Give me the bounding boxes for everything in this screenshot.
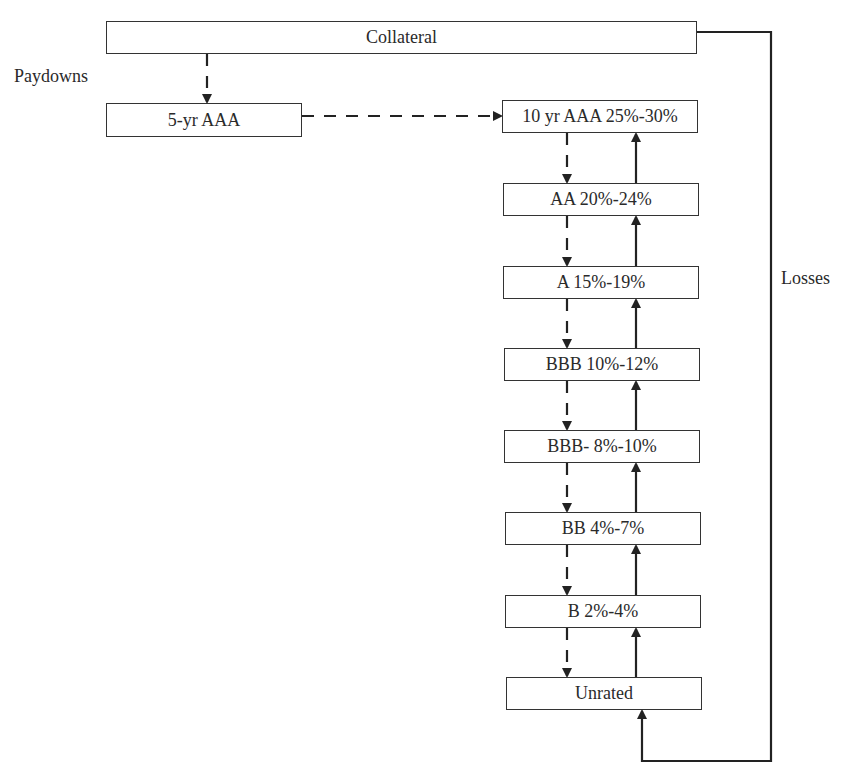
tranche-label: BB 4%-7% [562,518,645,539]
short-tranche-box: 5-yr AAA [106,103,302,137]
tranche-box: B 2%-4% [505,595,701,628]
tranche-box: BB 4%-7% [505,512,701,545]
tranche-label: A 15%-19% [557,272,646,293]
tranche-box: A 15%-19% [503,266,699,299]
tranche-box: 10 yr AAA 25%-30% [502,100,698,133]
tranche-label: BBB- 8%-10% [547,436,657,457]
loss-loop-arrow [642,32,771,761]
tranche-label: AA 20%-24% [550,189,652,210]
short-tranche-label: 5-yr AAA [168,110,241,131]
losses-label: Losses [781,268,830,289]
paydowns-label: Paydowns [14,66,88,87]
collateral-box: Collateral [106,21,697,54]
tranche-box: Unrated [506,677,702,710]
tranche-box: BBB- 8%-10% [504,430,700,463]
tranche-label: B 2%-4% [568,601,639,622]
tranche-label: Unrated [575,683,633,704]
tranche-label: BBB 10%-12% [546,354,659,375]
tranche-box: BBB 10%-12% [504,348,700,381]
collateral-label: Collateral [366,27,437,48]
tranche-label: 10 yr AAA 25%-30% [522,106,678,127]
tranche-box: AA 20%-24% [503,183,699,216]
